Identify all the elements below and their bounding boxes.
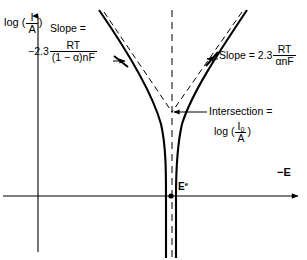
y-axis-label-suffix: ) <box>39 16 43 28</box>
anodic-slope-numerator: RT <box>273 44 295 55</box>
y-axis-label-numerator: I <box>26 12 37 23</box>
y-axis-label-denominator: A <box>26 23 37 35</box>
y-axis-label-prefix: log ( <box>4 16 25 28</box>
y-axis-label-fraction: I A <box>26 12 37 35</box>
tafel-plot-figure: log ( I A ) −E Ee Slope = −2.3 RT (1 − α… <box>0 0 307 260</box>
equilibrium-potential-label: Ee <box>178 182 188 192</box>
intersection-numerator-subscript: 0 <box>240 126 244 134</box>
cathodic-branch <box>99 10 166 258</box>
intersection-expression-prefix: log ( <box>214 125 234 137</box>
plot-canvas <box>0 0 307 260</box>
intersection-numerator: I0 <box>235 121 246 132</box>
equilibrium-potential-symbol: E <box>178 181 185 192</box>
x-axis-label: −E <box>277 167 291 178</box>
cathodic-slope-caption: Slope = <box>50 23 86 34</box>
intersection-caption: Intersection = <box>209 106 272 117</box>
equilibrium-point-dot <box>168 193 173 198</box>
cathodic-asymptote <box>104 12 172 112</box>
intersection-expression-suffix: ) <box>247 125 251 137</box>
intersection-expression: log ( I0 A ) <box>214 121 251 144</box>
cathodic-slope-numerator: RT <box>50 40 97 51</box>
y-axis-label: log ( I A ) <box>4 12 42 35</box>
cathodic-slope-denominator: (1 − α)nF <box>50 51 97 63</box>
anodic-slope-fraction: RT αnF <box>273 44 295 66</box>
anodic-slope-expression: Slope = 2.3 RT αnF <box>219 44 297 66</box>
cathodic-slope-fraction: RT (1 − α)nF <box>50 40 97 62</box>
cathodic-slope-expression: −2.3 RT (1 − α)nF <box>28 40 98 62</box>
cathodic-slope-coefficient: −2.3 <box>28 45 49 57</box>
equilibrium-potential-superscript: e <box>185 181 188 187</box>
intersection-fraction: I0 A <box>235 121 246 144</box>
anodic-slope-caption: Slope = 2.3 <box>219 49 272 61</box>
anodic-slope-denominator: αnF <box>273 55 295 67</box>
